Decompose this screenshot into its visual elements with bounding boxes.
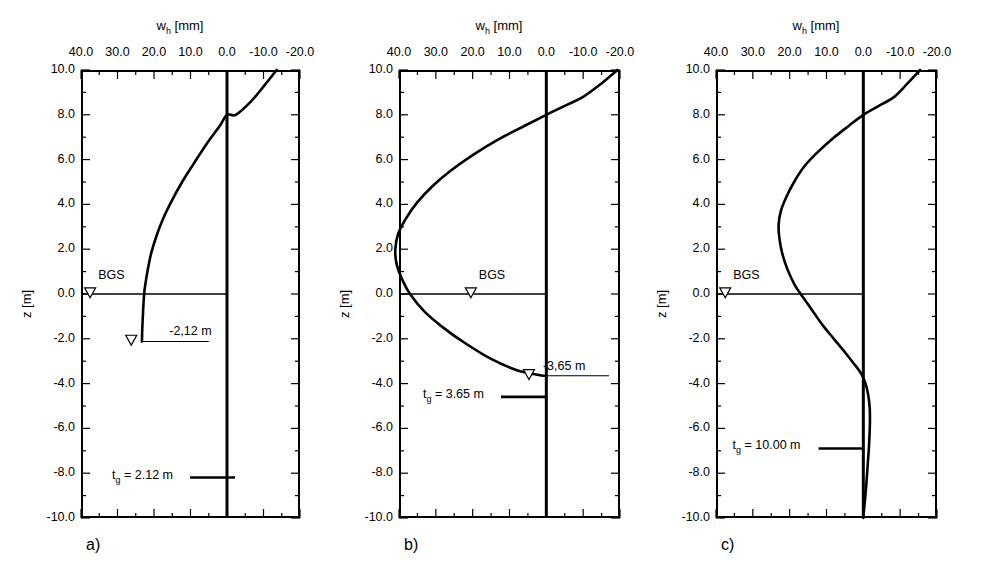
bgs-label: BGS (479, 268, 505, 282)
bgs-triangle-icon (85, 288, 96, 298)
water-table-triangle-icon (126, 335, 137, 345)
bgs-triangle-icon (465, 288, 476, 298)
y-tick-label: 6.0 (351, 152, 393, 166)
panel-caption-b: b) (404, 536, 418, 554)
y-axis-title: z [m] (654, 290, 669, 318)
x-tick-label: -20.0 (914, 45, 960, 59)
y-tick-label: -8.0 (33, 465, 75, 479)
x-axis-title: wh [mm] (157, 18, 204, 36)
legend-label: tg = 2.12 m (112, 468, 173, 485)
x-axis-title: wh [mm] (793, 18, 840, 36)
y-tick-label: -6.0 (33, 420, 75, 434)
y-tick-label: 8.0 (33, 107, 75, 121)
plot-frame (399, 70, 620, 518)
panel-caption-a: a) (86, 536, 100, 554)
water-table-label: -3,65 m (543, 359, 585, 373)
y-tick-label: -2.0 (33, 331, 75, 345)
water-table-label: -2,12 m (169, 324, 211, 338)
y-tick-label: -10.0 (668, 510, 710, 524)
legend-label: tg = 10.00 m (733, 438, 801, 455)
y-tick-label: 4.0 (33, 196, 75, 210)
y-tick-label: 0.0 (33, 286, 75, 300)
y-tick-label: 2.0 (351, 241, 393, 255)
y-tick-label: 6.0 (33, 152, 75, 166)
y-tick-label: 10.0 (351, 62, 393, 76)
bgs-label: BGS (98, 268, 124, 282)
y-tick-label: -4.0 (351, 376, 393, 390)
y-tick-label: 0.0 (668, 286, 710, 300)
y-tick-label: -2.0 (351, 331, 393, 345)
x-tick-label: -20.0 (597, 45, 643, 59)
panel-caption-c: c) (721, 536, 734, 554)
profile-curve (142, 70, 277, 341)
y-tick-label: -6.0 (668, 420, 710, 434)
bgs-label: BGS (733, 268, 759, 282)
bgs-triangle-icon (720, 288, 731, 298)
y-tick-label: 10.0 (668, 62, 710, 76)
y-tick-label: 4.0 (668, 196, 710, 210)
y-tick-label: 8.0 (351, 107, 393, 121)
y-tick-label: -2.0 (668, 331, 710, 345)
y-tick-label: 8.0 (668, 107, 710, 121)
y-tick-label: 0.0 (351, 286, 393, 300)
y-tick-label: 2.0 (668, 241, 710, 255)
y-axis-title: z [m] (337, 290, 352, 318)
profile-curve (395, 70, 617, 376)
y-tick-label: -8.0 (668, 465, 710, 479)
legend-label: tg = 3.65 m (423, 387, 484, 404)
plot-frame (81, 70, 300, 518)
y-tick-label: -10.0 (33, 510, 75, 524)
y-tick-label: -4.0 (33, 376, 75, 390)
y-axis-title: z [m] (19, 290, 34, 318)
y-tick-label: 10.0 (33, 62, 75, 76)
y-tick-label: -8.0 (351, 465, 393, 479)
x-tick-label: -20.0 (277, 45, 323, 59)
y-tick-label: 6.0 (668, 152, 710, 166)
y-tick-label: -4.0 (668, 376, 710, 390)
y-tick-label: 2.0 (33, 241, 75, 255)
x-axis-title: wh [mm] (476, 18, 523, 36)
y-tick-label: -10.0 (351, 510, 393, 524)
y-tick-label: -6.0 (351, 420, 393, 434)
y-tick-label: 4.0 (351, 196, 393, 210)
